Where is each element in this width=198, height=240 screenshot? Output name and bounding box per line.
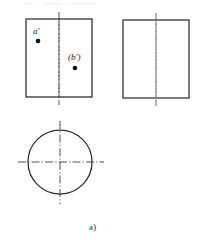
point-b-prime-label: (b′): [68, 53, 80, 62]
top-view-group: [18, 121, 104, 204]
side-view-group: [123, 13, 189, 106]
orthographic-projection-drawing: [0, 0, 198, 240]
point-a-prime-label: a′: [33, 27, 39, 36]
figure-container: — ·· —— · ———: [0, 0, 198, 240]
point-b-prime-dot: [73, 66, 78, 71]
point-a-prime-dot: [36, 39, 41, 44]
figure-caption: a): [89, 222, 96, 232]
